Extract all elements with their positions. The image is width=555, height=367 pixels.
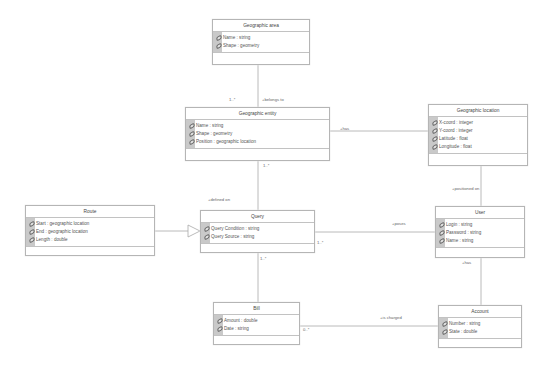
attribute-list: Amount : double Date : string bbox=[214, 315, 299, 336]
attribute-list: Login : string Password : string Name : … bbox=[436, 219, 524, 248]
attribute[interactable]: Name : string bbox=[186, 122, 329, 130]
operation-list bbox=[214, 336, 299, 343]
attribute-icon bbox=[431, 120, 438, 126]
attribute-icon bbox=[438, 222, 445, 228]
attribute-list: Number : string State : double bbox=[439, 318, 521, 339]
label-defined-on: +defined on bbox=[208, 197, 230, 202]
class-name: Geographic location bbox=[429, 105, 527, 117]
attribute[interactable]: Amount : double bbox=[214, 317, 299, 325]
attribute[interactable]: State : double bbox=[439, 328, 521, 336]
attribute[interactable]: Y-coord : integer bbox=[429, 127, 527, 135]
attribute[interactable]: Shape : geometry bbox=[186, 130, 329, 138]
label-positioned-on: +positioned on bbox=[452, 186, 479, 191]
class-name: Account bbox=[439, 306, 521, 318]
attribute-icon bbox=[188, 131, 195, 137]
attribute-icon bbox=[203, 226, 210, 232]
attribute[interactable]: Latitude : float bbox=[429, 135, 527, 143]
class-account[interactable]: Account Number : string State : double bbox=[438, 305, 522, 348]
attribute[interactable]: Query Condition : string bbox=[201, 225, 314, 233]
label-is-charged: +is charged bbox=[380, 315, 402, 320]
attribute-icon bbox=[28, 229, 35, 235]
attribute-icon bbox=[438, 230, 445, 236]
class-name: User bbox=[436, 207, 524, 219]
class-name: Bill bbox=[214, 303, 299, 315]
attribute[interactable]: Shape : geometry bbox=[213, 42, 309, 50]
attribute-icon bbox=[203, 234, 210, 240]
attribute-icon bbox=[215, 43, 222, 49]
operation-list bbox=[213, 53, 309, 60]
class-name: Geographic entity bbox=[186, 108, 329, 120]
operation-list bbox=[186, 149, 329, 156]
class-name: Geographic area bbox=[213, 20, 309, 32]
class-bill[interactable]: Bill Amount : double Date : string bbox=[213, 302, 300, 345]
multiplicity-belongs-to: 1..* bbox=[229, 97, 235, 102]
class-geographic-location[interactable]: Geographic location X-coord : integer Y-… bbox=[428, 104, 528, 166]
multiplicity-poses: 1..* bbox=[317, 240, 323, 245]
multiplicity-query: 1..* bbox=[260, 256, 266, 261]
attribute[interactable]: Length : double bbox=[26, 236, 154, 244]
class-geographic-entity[interactable]: Geographic entity Name : string Shape : … bbox=[185, 107, 330, 161]
attribute-icon bbox=[431, 136, 438, 142]
attribute-icon bbox=[441, 321, 448, 327]
attribute-icon bbox=[188, 139, 195, 145]
attribute[interactable]: Date : string bbox=[214, 325, 299, 333]
attribute-list: Start : geographic location End : geogra… bbox=[26, 218, 154, 247]
attribute[interactable]: Name : string bbox=[436, 237, 524, 245]
label-belongs-to: +belongs to bbox=[262, 97, 284, 102]
attribute-list: Name : string Shape : geometry Position … bbox=[186, 120, 329, 149]
attribute[interactable]: Start : geographic location bbox=[26, 220, 154, 228]
operation-list bbox=[26, 247, 154, 254]
attribute-icon bbox=[28, 237, 35, 243]
attribute[interactable]: Name : string bbox=[213, 34, 309, 42]
attribute-icon bbox=[216, 326, 223, 332]
operation-list bbox=[201, 244, 314, 251]
attribute-list: Name : string Shape : geometry bbox=[213, 32, 309, 53]
class-user[interactable]: User Login : string Password : string Na… bbox=[435, 206, 525, 258]
attribute-list: Query Condition : string Query Source : … bbox=[201, 223, 314, 244]
attribute[interactable]: Query Source : string bbox=[201, 233, 314, 241]
attribute-icon bbox=[216, 318, 223, 324]
attribute[interactable]: Position : geographic location bbox=[186, 138, 329, 146]
attribute[interactable]: End : geographic location bbox=[26, 228, 154, 236]
multiplicity-entity: 1..* bbox=[263, 163, 269, 168]
label-has-location: +has bbox=[340, 126, 349, 131]
attribute[interactable]: Longitude : float bbox=[429, 143, 527, 151]
attribute-icon bbox=[28, 221, 35, 227]
attribute-icon bbox=[441, 329, 448, 335]
attribute-icon bbox=[188, 123, 195, 129]
class-query[interactable]: Query Query Condition : string Query Sou… bbox=[200, 210, 315, 253]
attribute[interactable]: Login : string bbox=[436, 221, 524, 229]
attribute-icon bbox=[215, 35, 222, 41]
attribute-icon bbox=[431, 128, 438, 134]
multiplicity-bill: 0..* bbox=[303, 327, 309, 332]
attribute-list: X-coord : integer Y-coord : integer Lati… bbox=[429, 117, 527, 154]
class-name: Query bbox=[201, 211, 314, 223]
label-poses: +poses bbox=[392, 221, 406, 226]
attribute-icon bbox=[438, 238, 445, 244]
attribute[interactable]: Password : string bbox=[436, 229, 524, 237]
class-name: Route bbox=[26, 206, 154, 218]
class-geographic-area[interactable]: Geographic area Name : string Shape : ge… bbox=[212, 19, 310, 65]
attribute[interactable]: X-coord : integer bbox=[429, 119, 527, 127]
operation-list bbox=[439, 339, 521, 346]
label-user-has: +has bbox=[462, 260, 471, 265]
class-route[interactable]: Route Start : geographic location End : … bbox=[25, 205, 155, 256]
operation-list bbox=[436, 248, 524, 255]
uml-class-diagram: Geographic area Name : string Shape : ge… bbox=[0, 0, 555, 367]
attribute[interactable]: Number : string bbox=[439, 320, 521, 328]
attribute-icon bbox=[431, 144, 438, 150]
operation-list bbox=[429, 154, 527, 161]
